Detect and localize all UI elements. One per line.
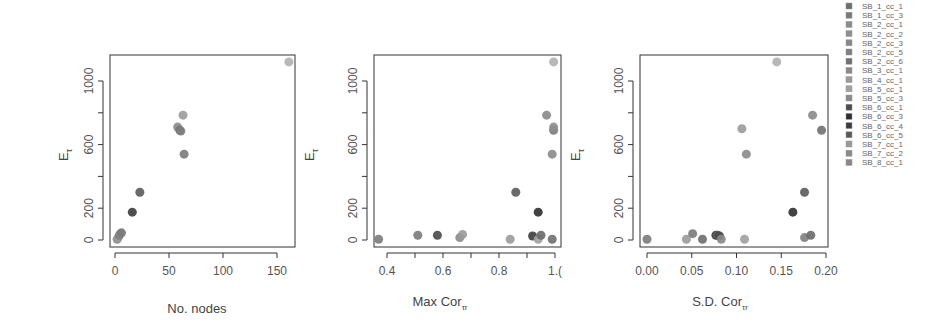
legend-label: SB_7_cc_1 xyxy=(862,140,903,149)
x-tick-label: 0.15 xyxy=(770,264,794,278)
legend-swatch xyxy=(846,95,852,101)
data-point xyxy=(117,228,126,237)
x-tick-label: 150 xyxy=(267,264,287,278)
data-point xyxy=(506,235,515,244)
x-tick-label: 0.8 xyxy=(491,264,508,278)
x-tick-label: 100 xyxy=(213,264,233,278)
data-point xyxy=(180,150,189,159)
legend-swatch xyxy=(846,49,852,55)
data-point xyxy=(548,150,557,159)
data-point xyxy=(284,57,293,66)
x-axis-label: No. nodes xyxy=(167,301,227,316)
legend-label: SB_6_cc_3 xyxy=(862,112,903,121)
legend-swatch xyxy=(846,132,852,138)
data-point xyxy=(176,127,185,136)
legend-swatch xyxy=(846,40,852,46)
legend-label: SB_8_cc_1 xyxy=(862,158,903,167)
legend-swatch xyxy=(846,113,852,119)
points xyxy=(643,57,827,243)
data-point xyxy=(179,111,188,120)
x-tick-label: 0.4 xyxy=(379,264,396,278)
x-axis: 0.000.050.100.150.20 xyxy=(635,253,838,278)
legend-label: SB_1_cc_1 xyxy=(862,2,903,11)
x-tick-label: 0.00 xyxy=(635,264,659,278)
x-axis: 050100150 xyxy=(112,253,288,278)
points xyxy=(113,57,294,243)
legend-label: SB_3_cc_1 xyxy=(862,66,903,75)
legend-swatch xyxy=(846,150,852,156)
legend-label: SB_4_cc_1 xyxy=(862,76,903,85)
y-tick-label: 0 xyxy=(82,236,96,243)
legend-swatch xyxy=(846,58,852,64)
data-point xyxy=(433,231,442,240)
y-tick-label: 600 xyxy=(82,134,96,154)
legend-label: SB_7_cc_2 xyxy=(862,149,903,158)
data-point xyxy=(742,150,751,159)
legend-label: SB_5_cc_1 xyxy=(862,85,903,94)
data-point xyxy=(806,231,815,240)
data-point xyxy=(740,235,749,244)
y-tick-label: 200 xyxy=(612,198,626,218)
x-tick-label: 50 xyxy=(162,264,176,278)
x-axis-label: S.D. Corτr xyxy=(692,294,748,312)
data-point xyxy=(817,126,826,135)
data-point xyxy=(808,111,817,120)
data-point xyxy=(698,235,707,244)
data-point xyxy=(717,235,726,244)
x-axis: 0.40.60.81.( xyxy=(379,253,562,278)
scatter-figure: 02006001000 050100150 Eτ No. nodes 02006… xyxy=(0,0,950,331)
data-point xyxy=(413,231,422,240)
legend-label: SB_6_cc_1 xyxy=(862,103,903,112)
y-tick-label: 1000 xyxy=(612,67,626,94)
legend-label: SB_2_cc_3 xyxy=(862,39,903,48)
data-point xyxy=(688,229,697,238)
x-tick-label: 0 xyxy=(112,264,119,278)
y-axis-label: Eτ xyxy=(568,148,586,161)
data-point xyxy=(458,230,467,239)
x-tick-label: 1.( xyxy=(548,264,562,278)
legend-label: SB_2_cc_6 xyxy=(862,57,903,66)
x-axis-label: Max Corτr xyxy=(413,294,468,312)
x-tick-label: 0.20 xyxy=(814,264,838,278)
y-axis-label: Eτ xyxy=(302,148,320,161)
data-point xyxy=(549,123,558,132)
y-axis: 02006001000 xyxy=(612,67,633,243)
legend-swatch xyxy=(846,123,852,129)
points xyxy=(374,57,558,243)
data-point xyxy=(737,124,746,133)
y-tick-label: 1000 xyxy=(82,67,96,94)
legend-swatch xyxy=(846,12,852,18)
plot-frame xyxy=(110,55,295,247)
data-point xyxy=(128,208,137,217)
data-point xyxy=(800,188,809,197)
data-point xyxy=(135,188,144,197)
legend-swatch xyxy=(846,86,852,92)
y-axis: 02006001000 xyxy=(346,67,367,243)
data-point xyxy=(643,235,652,244)
x-tick-label: 0.05 xyxy=(680,264,704,278)
y-tick-label: 0 xyxy=(612,236,626,243)
data-point xyxy=(537,231,546,240)
y-axis: 02006001000 xyxy=(82,67,103,243)
data-point xyxy=(772,57,781,66)
legend-swatch xyxy=(846,159,852,165)
data-point xyxy=(542,111,551,120)
legend-label: SB_2_cc_2 xyxy=(862,30,903,39)
y-tick-label: 1000 xyxy=(346,67,360,94)
legend-swatch xyxy=(846,31,852,37)
legend-label: SB_5_cc_3 xyxy=(862,94,903,103)
panel-sd-cor: 02006001000 0.000.050.100.150.20 Eτ S.D.… xyxy=(568,55,838,312)
legend-label: SB_2_cc_5 xyxy=(862,48,903,57)
data-point xyxy=(549,57,558,66)
data-point xyxy=(548,235,557,244)
y-tick-label: 600 xyxy=(346,134,360,154)
x-tick-label: 0.6 xyxy=(435,264,452,278)
data-point xyxy=(374,235,383,244)
legend-swatch xyxy=(846,141,852,147)
legend-swatch xyxy=(846,77,852,83)
legend-swatch xyxy=(846,21,852,27)
legend-label: SB_2_cc_1 xyxy=(862,20,903,29)
legend-swatch xyxy=(846,3,852,9)
legend-swatch xyxy=(846,67,852,73)
panel-max-cor: 02006001000 0.40.60.81.( Eτ Max Corτr xyxy=(302,55,562,312)
